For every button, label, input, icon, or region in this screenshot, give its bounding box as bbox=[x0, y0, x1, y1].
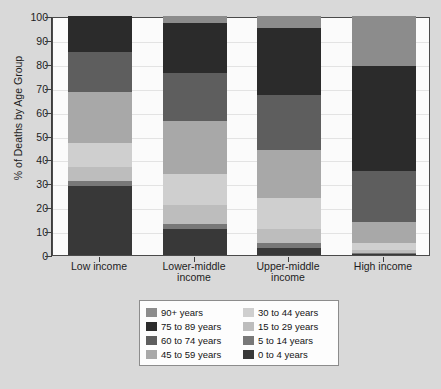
x-axis-tick bbox=[383, 257, 384, 262]
legend-item[interactable]: 45 to 59 years bbox=[146, 349, 235, 361]
bar-segment[interactable] bbox=[352, 254, 416, 255]
legend-label: 0 to 4 years bbox=[258, 350, 308, 359]
legend-swatch bbox=[146, 322, 157, 331]
x-axis-tick-label: Low income bbox=[53, 261, 145, 272]
legend-item[interactable]: 75 to 89 years bbox=[146, 320, 235, 332]
legend-item[interactable]: 60 to 74 years bbox=[146, 335, 235, 347]
legend-label: 60 to 74 years bbox=[161, 336, 221, 345]
bar-segment[interactable] bbox=[257, 198, 321, 229]
bar-segment[interactable] bbox=[352, 16, 416, 66]
y-axis-tick bbox=[45, 160, 52, 161]
bar-segment[interactable] bbox=[163, 121, 227, 174]
y-axis-tick bbox=[45, 113, 52, 114]
legend-label: 90+ years bbox=[161, 308, 203, 317]
bar-low-income[interactable] bbox=[68, 16, 132, 255]
legend-swatch bbox=[243, 350, 254, 359]
x-axis-tick bbox=[194, 257, 195, 262]
bar-segment[interactable] bbox=[68, 16, 132, 52]
bar-lower-middle-income[interactable] bbox=[163, 16, 227, 255]
bar-segment[interactable] bbox=[163, 229, 227, 255]
bar-segment[interactable] bbox=[68, 92, 132, 142]
legend-label: 75 to 89 years bbox=[161, 322, 221, 331]
bar-segment[interactable] bbox=[352, 66, 416, 171]
bar-segment[interactable] bbox=[352, 171, 416, 221]
x-axis-tick bbox=[99, 257, 100, 262]
y-axis-tick bbox=[45, 17, 52, 18]
y-axis-tick bbox=[45, 232, 52, 233]
bar-segment[interactable] bbox=[257, 16, 321, 28]
legend-label: 5 to 14 years bbox=[258, 336, 313, 345]
bar-segment[interactable] bbox=[352, 222, 416, 244]
plot-area bbox=[52, 17, 430, 256]
bar-segment[interactable] bbox=[257, 28, 321, 95]
legend-label: 45 to 59 years bbox=[161, 350, 221, 359]
x-axis-tick-label: Lower-middle income bbox=[148, 261, 240, 283]
legend-column-left: 90+ years75 to 89 years60 to 74 years45 … bbox=[146, 306, 235, 361]
legend-swatch bbox=[243, 322, 254, 331]
y-axis-tick bbox=[45, 65, 52, 66]
y-axis-tick bbox=[45, 208, 52, 209]
y-axis-tick bbox=[45, 137, 52, 138]
bar-segment[interactable] bbox=[352, 243, 416, 250]
y-axis-tick bbox=[45, 89, 52, 90]
legend-swatch bbox=[243, 336, 254, 345]
bar-segment[interactable] bbox=[68, 186, 132, 255]
bar-segment[interactable] bbox=[68, 167, 132, 181]
bar-segment[interactable] bbox=[257, 229, 321, 243]
bar-segment[interactable] bbox=[163, 73, 227, 121]
bar-segment[interactable] bbox=[163, 16, 227, 23]
bar-segment[interactable] bbox=[163, 205, 227, 224]
chart-legend: 90+ years75 to 89 years60 to 74 years45 … bbox=[139, 300, 339, 366]
bar-segment[interactable] bbox=[68, 143, 132, 167]
bar-segment[interactable] bbox=[68, 52, 132, 93]
y-axis-tick bbox=[45, 41, 52, 42]
bar-segment[interactable] bbox=[163, 23, 227, 73]
bar-segment[interactable] bbox=[257, 95, 321, 150]
bar-segment[interactable] bbox=[163, 174, 227, 205]
legend-item[interactable]: 0 to 4 years bbox=[243, 349, 332, 361]
legend-swatch bbox=[146, 308, 157, 317]
y-axis-tick bbox=[45, 184, 52, 185]
legend-label: 15 to 29 years bbox=[258, 322, 318, 331]
legend-column-right: 30 to 44 years15 to 29 years5 to 14 year… bbox=[243, 306, 332, 361]
bar-high-income[interactable] bbox=[352, 16, 416, 255]
legend-swatch bbox=[146, 336, 157, 345]
legend-label: 30 to 44 years bbox=[258, 308, 318, 317]
bar-segment[interactable] bbox=[257, 248, 321, 255]
x-axis-tick-label: High income bbox=[337, 261, 429, 272]
chart-container: 1009080706050403020100 % of Deaths by Ag… bbox=[0, 0, 441, 389]
y-axis-tick bbox=[45, 256, 52, 257]
x-axis-tick-label: Upper-middle income bbox=[242, 261, 334, 283]
legend-swatch bbox=[243, 308, 254, 317]
y-axis-title: % of Deaths by Age Group bbox=[12, 28, 24, 208]
legend-item[interactable]: 15 to 29 years bbox=[243, 320, 332, 332]
legend-item[interactable]: 30 to 44 years bbox=[243, 306, 332, 318]
bar-upper-middle-income[interactable] bbox=[257, 16, 321, 255]
legend-item[interactable]: 5 to 14 years bbox=[243, 335, 332, 347]
legend-swatch bbox=[146, 350, 157, 359]
legend-item[interactable]: 90+ years bbox=[146, 306, 235, 318]
bar-segment[interactable] bbox=[257, 150, 321, 198]
x-axis-tick bbox=[288, 257, 289, 262]
y-axis-title-wrapper: % of Deaths by Age Group bbox=[0, 0, 40, 389]
